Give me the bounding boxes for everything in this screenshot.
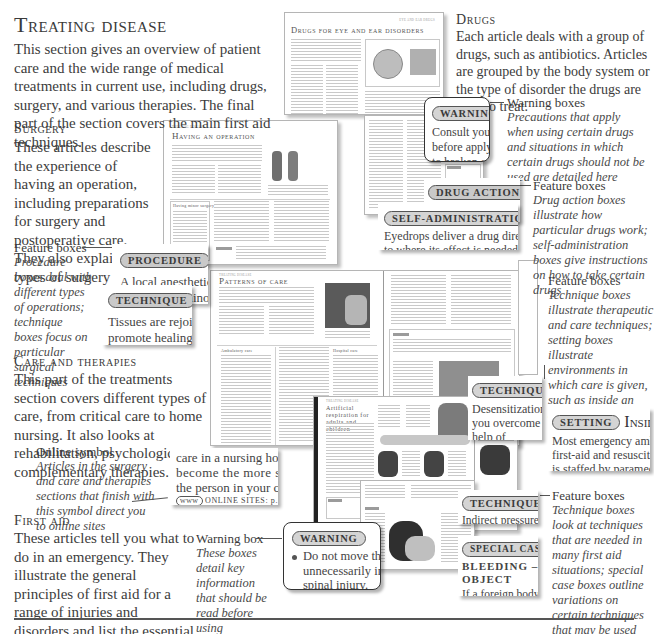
special-case-tag: SPECIAL CASE — [462, 542, 538, 557]
self-administration-tag: SELF-ADMINISTRATION — [384, 211, 518, 226]
page-title: Treating disease — [14, 12, 167, 38]
excerpt-line-1: care in a nursing home c — [176, 450, 278, 465]
self-admin-line-1: Eyedrops deliver a drug directly — [384, 229, 518, 243]
drug-warning-line-1: Consult your pl — [432, 125, 489, 140]
special-case-subtitle-2: OBJECT — [462, 573, 538, 586]
self-admin-line-2: to where its effect is needed. Alw — [384, 243, 518, 250]
online-sites-label: ONLINE SITES: p.1035 — [205, 496, 278, 505]
technique-line-1: Tissues are rejoined af — [108, 314, 192, 330]
first-aid-heading: First aid — [14, 513, 70, 529]
running-head: EYE AND EAR DRUGS — [399, 18, 435, 22]
warning-bullet-text: Do not move the victi — [303, 549, 381, 563]
special-case-callout: SPECIAL CASESje BLEEDING – EMI OBJECT If… — [458, 536, 538, 596]
surgery-technique-callout: TECHNIQUER Tissues are rejoined af promo… — [102, 285, 192, 345]
leader-line — [82, 247, 112, 248]
care-technique-line-3: help of — [472, 430, 542, 440]
warning-box-note-heading: Warning box — [196, 531, 263, 546]
drug-warning-note-text: Precautions that apply when using certai… — [507, 110, 647, 185]
drug-action-tag: DRUG ACTION — [428, 185, 520, 200]
surgery-illustration — [272, 151, 282, 181]
leader-line — [540, 495, 550, 496]
firstaid-feature-note-heading: Feature boxes — [552, 488, 625, 503]
drug-warning-callout: WARNING Consult your pl before applying … — [424, 97, 490, 162]
leader-line — [490, 102, 504, 103]
self-administration-callout: SELF-ADMINISTRATION Eyedrops deliver a d… — [378, 204, 518, 250]
firstaid-feature-note-text: Technique boxes look at techniques that … — [552, 503, 654, 634]
care-subhead-hospital: Hospital care — [333, 348, 358, 353]
warning-tag: WARNING — [292, 531, 366, 546]
surgery-feature-note-heading: Feature boxes — [14, 240, 87, 255]
setting-line-3: is staffed by paramedi — [552, 462, 650, 471]
care-technique-line-2: you overcome a phobia — [472, 416, 542, 430]
cpr-illustration — [438, 403, 468, 437]
technique-tag: TECHNIQUE — [462, 496, 538, 511]
warning-bullet-text: unnecessarily in case — [303, 564, 381, 578]
drug-warning-line-2: before applying — [432, 140, 489, 155]
surgery-subhead: Having minor surgery — [173, 203, 214, 208]
firstaid-warning-callout: WARNING Do not move the victi unnecessar… — [283, 522, 381, 590]
bottom-divider — [14, 618, 634, 620]
drug-warning-note-heading: Warning boxes — [507, 95, 585, 110]
surgery-heading: Surgery — [14, 121, 67, 137]
technique-tag: TECHNIQUE — [472, 383, 542, 398]
setting-line-1: Most emergency amb — [552, 434, 650, 448]
setting-line-2: first-aid and resuscitat — [552, 448, 650, 462]
warning-bullet-1: Do not move the victi — [292, 549, 380, 564]
drug-warning-line-3: to broken or inf — [432, 155, 489, 162]
warning-tag: WARNING — [432, 106, 490, 121]
special-case-line-1: If a foreign body is e — [462, 588, 538, 596]
setting-title: Insid — [624, 413, 650, 431]
warning-bullet-1-end: spinal injury. — [292, 578, 380, 590]
leader-line — [520, 185, 531, 186]
technique-line-2: promote healing, stop — [108, 330, 192, 345]
care-heading: Care and therapies — [14, 354, 137, 370]
care-technique-callout: TECHNIQUEDes Desensitization therapy you… — [468, 376, 542, 440]
procedure-tag: PROCEDURE — [120, 253, 208, 268]
online-sites-link[interactable]: WWW ONLINE SITES: p.1035 — [176, 495, 278, 505]
setting-callout: SETTINGInsid Most emergency amb first-ai… — [548, 408, 650, 471]
warning-bullet-text: spinal injury. — [303, 578, 368, 590]
drug-feature-note-heading: Feature boxes — [533, 178, 606, 193]
firstaid-technique-line-1: Indirect pressure can — [462, 514, 538, 524]
excerpt-line-2: become the more suital — [176, 465, 278, 480]
care-feature-note-heading: Feature boxes — [548, 273, 621, 288]
warning-box-note-text: These boxes detail key information that … — [196, 546, 274, 634]
www-icon: WWW — [176, 496, 203, 505]
care-feature-note-text: Technique boxes illustrate therapeutic a… — [548, 288, 654, 423]
drugs-heading: Drugs — [456, 12, 496, 28]
online-note-heading: Online symbol — [36, 444, 113, 459]
drugs-page-title: Drugs for eye and ear disorders — [291, 25, 424, 35]
care-page-title: Patterns of care — [219, 276, 288, 286]
technique-tag: TECHNIQUE — [108, 293, 192, 308]
care-technique-line-1: Desensitization therapy — [472, 402, 542, 416]
drugs-page-thumbnail: EYE AND EAR DRUGS Drugs for eye and ear … — [284, 12, 444, 115]
leader-line — [544, 365, 545, 379]
excerpt-line-3: the person in your care. — [176, 480, 278, 495]
online-excerpt-callout: care in a nursing home c become the more… — [170, 448, 278, 505]
warning-bullet-1-cont: unnecessarily in case — [292, 564, 380, 579]
leader-line — [256, 538, 282, 539]
bullet-icon — [292, 555, 297, 560]
care-subhead-ambulatory: Ambulatory care — [221, 348, 253, 353]
running-head: TREATING DISEASE — [326, 399, 359, 403]
special-case-subtitle-1: BLEEDING – EMI — [462, 560, 538, 573]
firstaid-technique-callout: TECHNIQUEInd Indirect pressure can bleed… — [458, 490, 538, 524]
setting-tag: SETTING — [552, 415, 620, 430]
